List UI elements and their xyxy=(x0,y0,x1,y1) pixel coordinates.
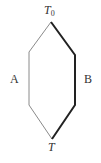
path-a-label: A xyxy=(10,73,19,85)
path-b-label: B xyxy=(84,73,92,85)
path-b-line xyxy=(51,22,75,139)
state-path-diagram: T0 T A B xyxy=(0,0,101,163)
path-a-line xyxy=(29,22,52,139)
initial-state-label: T0 xyxy=(44,4,55,18)
final-state-label: T xyxy=(48,141,55,153)
